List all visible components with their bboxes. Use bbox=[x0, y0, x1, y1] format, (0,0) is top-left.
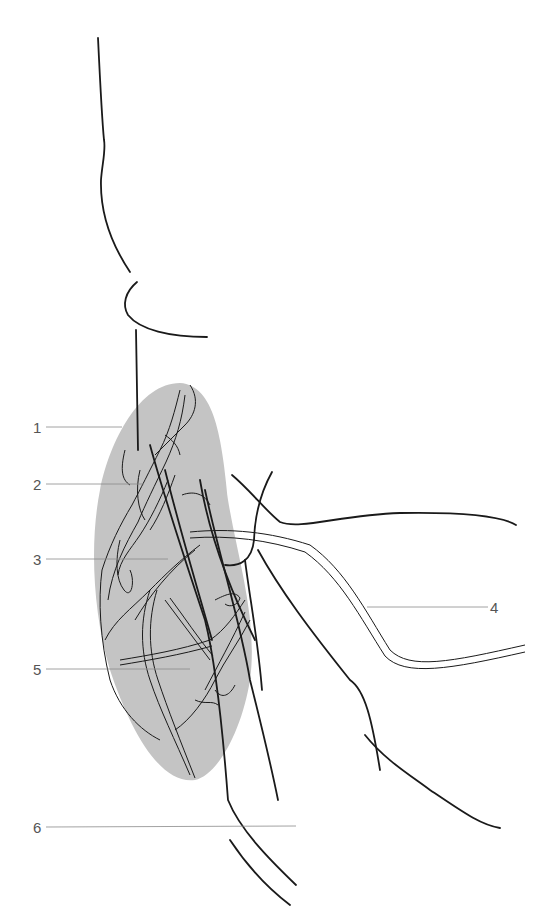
label-5: 5 bbox=[33, 662, 41, 677]
label-4: 4 bbox=[490, 600, 498, 615]
label-6: 6 bbox=[33, 820, 41, 835]
label-1: 1 bbox=[33, 420, 41, 435]
anatomy-diagram bbox=[0, 0, 552, 916]
leader-6 bbox=[46, 826, 296, 827]
label-3: 3 bbox=[33, 552, 41, 567]
label-2: 2 bbox=[33, 477, 41, 492]
